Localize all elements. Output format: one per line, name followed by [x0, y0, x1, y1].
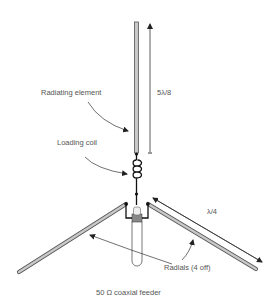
radial-length-label: λ/4: [207, 208, 217, 216]
radiating-element-rod: [135, 22, 139, 153]
loading-coil-label: Loading coil: [57, 139, 97, 147]
radials-label: Radials (4 off): [164, 264, 211, 272]
radials-pointer-left: [90, 235, 172, 264]
coaxial-feeder: [132, 218, 142, 266]
radiating-element-pointer: [88, 102, 128, 131]
radiating-element-label: Radiating element: [41, 89, 101, 97]
antenna-diagram: [0, 0, 274, 307]
element-length-label: 5λ/8: [157, 89, 171, 97]
feeder-label: 50 Ω coaxial feeder: [96, 289, 161, 297]
radials-pointer-right: [182, 240, 193, 260]
loading-coil-pointer: [85, 157, 127, 174]
loading-coil: [133, 160, 141, 194]
